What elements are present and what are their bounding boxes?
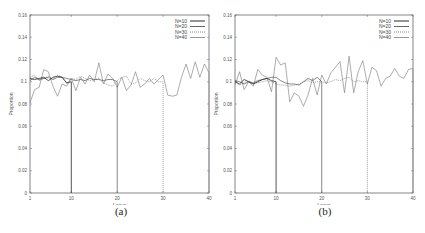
y-tick-label: 0.06 (18, 124, 27, 129)
y-tick-label: 0.16 (223, 13, 232, 18)
y-tick-label: 0.1 (21, 79, 28, 84)
series-line-n40 (235, 56, 413, 193)
y-tick-label: 0.14 (223, 35, 232, 40)
y-tick-label: 0.02 (18, 168, 27, 173)
y-tick-label: 0.1 (226, 79, 233, 84)
y-tick-label: 0.16 (18, 13, 27, 18)
chart-a: 00.020.040.060.080.10.120.140.1611020304… (0, 0, 212, 205)
y-axis-label: Proportion (8, 92, 14, 115)
series-line-n40 (30, 62, 209, 193)
x-tick-label: 10 (274, 196, 280, 201)
x-tick-label: 40 (410, 196, 416, 201)
x-tick-label: 20 (319, 196, 325, 201)
y-tick-label: 0.08 (18, 102, 27, 107)
x-tick-label: 20 (115, 196, 121, 201)
series-line-n20 (235, 77, 322, 193)
y-tick-label: 0.04 (18, 146, 27, 151)
panel-a: 00.020.040.060.080.10.120.140.1611020304… (0, 0, 212, 233)
series-line-n20 (30, 77, 117, 193)
y-tick-label: 0.12 (223, 57, 232, 62)
legend-label: N=40 (175, 34, 187, 40)
x-tick-label: 30 (365, 196, 371, 201)
legend-label: N=40 (379, 34, 391, 40)
series-line-n10 (30, 76, 71, 193)
caption-b: (b) (295, 205, 355, 217)
y-tick-label: 0 (24, 191, 27, 196)
plot-frame (30, 15, 209, 193)
panel-b: 00.020.040.060.080.10.120.140.1611020304… (212, 0, 424, 233)
y-tick-label: 0.14 (18, 35, 27, 40)
y-axis-label: Proportion (213, 92, 219, 115)
y-tick-label: 0.06 (223, 124, 232, 129)
series-line-n30 (30, 75, 163, 193)
x-tick-label: 30 (161, 196, 167, 201)
y-tick-label: 0.04 (223, 146, 232, 151)
y-tick-label: 0.02 (223, 168, 232, 173)
series-line-n30 (235, 77, 367, 193)
caption-a: (a) (91, 205, 151, 217)
x-tick-label: 1 (29, 196, 32, 201)
x-tick-label: 10 (69, 196, 75, 201)
series-line-n10 (235, 78, 276, 193)
plot-frame (235, 15, 413, 193)
y-tick-label: 0.12 (18, 57, 27, 62)
x-tick-label: 1 (234, 196, 237, 201)
chart-b: 00.020.040.060.080.10.120.140.1611020304… (212, 0, 425, 205)
y-tick-label: 0.08 (223, 102, 232, 107)
y-tick-label: 0 (229, 191, 232, 196)
